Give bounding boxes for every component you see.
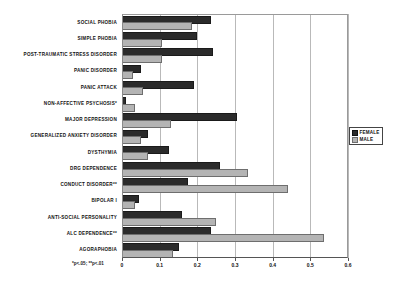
- legend-item: MALE: [352, 137, 380, 143]
- chart-legend: FEMALEMALE: [349, 127, 383, 145]
- bar-male: [122, 250, 173, 258]
- legend-swatch-male: [352, 137, 358, 143]
- bar-group: [122, 177, 348, 193]
- bar-group: [122, 79, 348, 95]
- bar-group: [122, 14, 348, 30]
- legend-label: FEMALE: [360, 130, 380, 135]
- bar-male: [122, 55, 162, 63]
- bar-group: [122, 193, 348, 209]
- x-tick-label: 0.3: [232, 262, 239, 268]
- significance-footnote: *p<.05; **p<.01: [72, 261, 104, 266]
- plot-area: [122, 14, 348, 258]
- bar-male: [122, 120, 171, 128]
- x-tick-mark: [235, 258, 236, 261]
- category-axis-labels: SOCIAL PHOBIASIMPLE PHOBIAPOST-TRAUMATIC…: [0, 14, 120, 258]
- bar-male: [122, 201, 135, 209]
- bar-group: [122, 209, 348, 225]
- x-tick-label: 0.1: [156, 262, 163, 268]
- x-tick-label: 0.4: [269, 262, 276, 268]
- bar-group: [122, 112, 348, 128]
- bar-male: [122, 185, 288, 193]
- category-label: ALC DEPENDENCE**: [0, 231, 117, 236]
- category-label: MAJOR DEPRESSION: [0, 117, 117, 122]
- category-label: GENERALIZED ANXIETY DISORDER: [0, 133, 117, 138]
- bar-male: [122, 234, 324, 242]
- x-tick-label: 0.5: [307, 262, 314, 268]
- x-tick-mark: [160, 258, 161, 261]
- category-label: SIMPLE PHOBIA: [0, 36, 117, 41]
- bar-male: [122, 71, 133, 79]
- bar-male: [122, 136, 141, 144]
- bar-group: [122, 144, 348, 160]
- category-label: NON-AFFECTIVE PSYCHOSIS*: [0, 101, 117, 106]
- bar-male: [122, 152, 148, 160]
- bar-group: [122, 63, 348, 79]
- x-tick-mark: [273, 258, 274, 261]
- bar-male: [122, 22, 192, 30]
- category-label: POST-TRAUMATIC STRESS DISORDER: [0, 52, 117, 57]
- category-label: PANIC DISORDER: [0, 68, 117, 73]
- x-tick-label: 0.6: [345, 262, 352, 268]
- bar-group: [122, 30, 348, 46]
- legend-item: FEMALE: [352, 130, 380, 136]
- bar-group: [122, 128, 348, 144]
- bar-male: [122, 39, 162, 47]
- x-tick-mark: [348, 258, 349, 261]
- category-label: ANTI-SOCIAL PERSONALITY: [0, 215, 117, 220]
- bar-male: [122, 218, 216, 226]
- bar-group: [122, 160, 348, 176]
- bar-group: [122, 95, 348, 111]
- category-label: DYSTHYMIA: [0, 150, 117, 155]
- category-label: CONDUCT DISORDER**: [0, 182, 117, 187]
- legend-swatch-female: [352, 130, 358, 136]
- category-label: DRG DEPENDENCE: [0, 166, 117, 171]
- bar-group: [122, 225, 348, 241]
- category-label: SOCIAL PHOBIA: [0, 20, 117, 25]
- category-label: AGORAPHOBIA: [0, 247, 117, 252]
- x-axis: 00.10.20.30.40.50.6: [122, 258, 348, 272]
- category-label: BIPOLAR I: [0, 198, 117, 203]
- bar-group: [122, 242, 348, 258]
- x-tick-label: 0.2: [194, 262, 201, 268]
- bar-chart: SOCIAL PHOBIASIMPLE PHOBIAPOST-TRAUMATIC…: [0, 0, 401, 291]
- bar-male: [122, 87, 143, 95]
- legend-label: MALE: [360, 137, 374, 142]
- category-label: PANIC ATTACK: [0, 85, 117, 90]
- x-tick-mark: [197, 258, 198, 261]
- x-tick-mark: [122, 258, 123, 261]
- bar-male: [122, 169, 248, 177]
- bar-group: [122, 47, 348, 63]
- x-tick-mark: [310, 258, 311, 261]
- x-tick-label: 0: [121, 262, 124, 268]
- bar-male: [122, 104, 135, 112]
